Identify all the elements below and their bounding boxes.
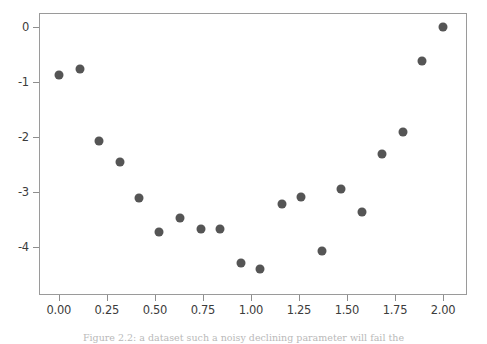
y-axis-tick-label: -2 xyxy=(18,130,29,144)
scatter-point xyxy=(154,227,163,236)
x-axis-tick xyxy=(107,295,108,301)
scatter-point xyxy=(377,150,386,159)
scatter-point xyxy=(277,200,286,209)
x-axis-tick-label: 0.75 xyxy=(191,303,215,317)
scatter-point xyxy=(95,136,104,145)
scatter-point xyxy=(54,71,63,80)
x-axis-tick-label: 1.00 xyxy=(239,303,263,317)
scatter-point xyxy=(216,225,225,234)
scatter-point xyxy=(317,247,326,256)
x-axis-tick xyxy=(155,295,156,301)
x-axis-tick xyxy=(443,295,444,301)
scatter-point xyxy=(75,65,84,74)
x-axis-tick-label: 1.50 xyxy=(335,303,359,317)
scatter-point xyxy=(135,193,144,202)
y-axis-tick xyxy=(33,192,39,193)
scatter-point xyxy=(358,207,367,216)
scatter-point xyxy=(337,185,346,194)
x-axis-tick-label: 1.25 xyxy=(287,303,311,317)
y-axis-tick-label: -3 xyxy=(18,185,29,199)
scatter-point xyxy=(296,192,305,201)
x-axis-tick-label: 0.00 xyxy=(47,303,71,317)
scatter-point xyxy=(417,57,426,66)
y-axis-tick xyxy=(33,137,39,138)
y-axis-tick xyxy=(33,82,39,83)
plot-axes-frame xyxy=(39,13,467,295)
y-axis-tick-label: 0 xyxy=(22,20,29,34)
x-axis-tick-label: 2.00 xyxy=(431,303,455,317)
x-axis-tick-label: 0.25 xyxy=(95,303,119,317)
x-axis-tick xyxy=(251,295,252,301)
scatter-point xyxy=(237,258,246,267)
x-axis-tick xyxy=(203,295,204,301)
y-axis-tick-label: -4 xyxy=(18,240,29,254)
y-axis-tick xyxy=(33,27,39,28)
scatter-point xyxy=(196,225,205,234)
scatter-point xyxy=(175,214,184,223)
y-axis-tick xyxy=(33,247,39,248)
figure-caption: Figure 2.2: a dataset such a noisy decli… xyxy=(0,331,487,344)
x-axis-tick xyxy=(347,295,348,301)
x-axis-tick xyxy=(395,295,396,301)
scatter-point xyxy=(398,127,407,136)
scatter-point xyxy=(438,23,447,32)
scatter-point xyxy=(256,265,265,274)
x-axis-tick-label: 1.75 xyxy=(383,303,407,317)
figure-container: 0-1-2-3-40.000.250.500.751.001.251.501.7… xyxy=(0,0,487,344)
x-axis-tick-label: 0.50 xyxy=(143,303,167,317)
y-axis-tick-label: -1 xyxy=(18,75,29,89)
scatter-point xyxy=(116,157,125,166)
x-axis-tick xyxy=(59,295,60,301)
x-axis-tick xyxy=(299,295,300,301)
